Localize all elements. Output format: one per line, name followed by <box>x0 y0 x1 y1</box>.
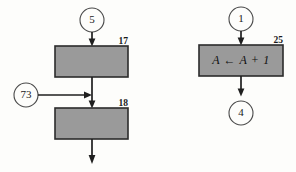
left-side-connector-label: 73 <box>21 88 33 100</box>
box-25-statement: A ← A + 1 <box>211 53 270 67</box>
box-17[interactable] <box>55 46 128 77</box>
arrowhead-connector73-to-flow <box>84 92 92 99</box>
right-exit-connector-label: 4 <box>238 106 244 118</box>
flowchart-svg: 5 17 73 18 1 25 A ← A + 1 <box>0 0 296 172</box>
diagram-canvas: 5 17 73 18 1 25 A ← A + 1 <box>0 0 296 172</box>
left-entry-connector-label: 5 <box>89 13 95 25</box>
arrowhead-box25-to-exit <box>238 89 245 97</box>
box-17-number-label: 17 <box>119 36 129 46</box>
box-25-number-label: 25 <box>274 35 284 45</box>
arrowhead-box18-exit <box>89 155 96 164</box>
box-18-number-label: 18 <box>119 98 129 108</box>
right-entry-connector-label: 1 <box>238 12 244 24</box>
box-18[interactable] <box>55 108 128 139</box>
